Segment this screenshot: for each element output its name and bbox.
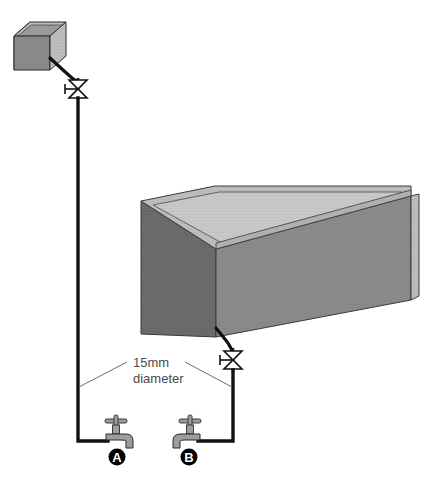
cistern-front-face (14, 36, 50, 70)
pipe-diameter-callout: 15mm diameter (79, 355, 232, 387)
callout-leader-right (185, 362, 232, 387)
pipe-main-riser-to-tap-a (78, 98, 108, 441)
tap-a-label: A (112, 450, 122, 465)
tap-b[interactable]: B (173, 415, 201, 466)
callout-line-2: diameter (133, 371, 184, 386)
tank-right-face (411, 194, 419, 300)
valve-lower[interactable] (220, 348, 242, 372)
tap-b-stem (187, 425, 194, 434)
valve-lower-disc-bottom (224, 360, 242, 369)
tap-b-label: B (184, 450, 193, 465)
tap-a[interactable]: A (105, 415, 133, 466)
small-header-tank (14, 22, 66, 70)
callout-leader-left (79, 362, 127, 387)
tap-a-stem (113, 425, 120, 434)
callout-line-1: 15mm (133, 355, 169, 370)
valve-upper[interactable] (65, 78, 87, 100)
pipe-cistern-outlet (50, 58, 78, 82)
tap-a-body-spout (106, 434, 133, 448)
plumbing-diagram: 15mm diameter A (0, 0, 428, 491)
pipe-riser-to-tap-b (198, 370, 233, 441)
tap-b-body-spout (173, 434, 200, 448)
valve-upper-disc-top (69, 80, 87, 89)
diagram-canvas: 15mm diameter A (0, 0, 428, 491)
valve-lower-disc-top (224, 351, 242, 360)
large-storage-tank (141, 186, 419, 337)
